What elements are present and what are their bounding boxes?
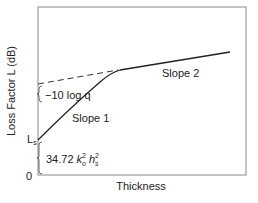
x-axis-label: Thickness — [116, 180, 166, 192]
slope1-curve — [38, 70, 120, 140]
loss-factor-diagram: Loss Factor L (dB) Thickness 0 Ls −10 lo… — [0, 0, 258, 203]
slope2-label: Slope 2 — [162, 67, 199, 79]
origin-label: 0 — [26, 170, 32, 182]
log-q-label: −10 log q — [45, 89, 91, 101]
y-axis-label: Loss Factor L (dB) — [5, 46, 17, 136]
ls-label: Ls — [27, 133, 37, 146]
slope1-label: Slope 1 — [72, 112, 109, 124]
formula-label: 34.72 k2o h2s — [46, 152, 99, 167]
